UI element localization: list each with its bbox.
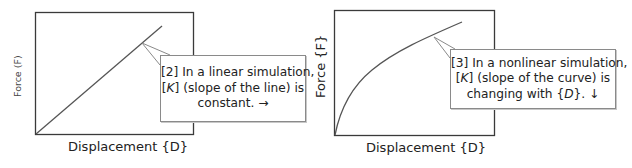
right-callout-box: [3] In a nonlinear simulation, [K] (slop… — [450, 49, 616, 109]
left-x-axis-label: Displacement {D} — [68, 139, 188, 154]
left-linear-line — [36, 26, 162, 134]
right-y-axis-label: Force {F} — [313, 35, 328, 98]
callout-line-2: [K] (slope of the curve) is — [451, 71, 615, 87]
callout-line-1: [3] In a nonlinear simulation, — [451, 56, 615, 72]
right-x-axis-label: Displacement {D} — [366, 140, 486, 155]
callout-line-3: changing with {D}. ↓ — [451, 87, 615, 103]
callout-line-1: [2] In a linear simulation, — [161, 65, 305, 81]
right-nonlinear-curve — [335, 22, 462, 135]
left-y-axis-label: Force (F) — [12, 55, 23, 97]
callout-line-3: constant. → — [161, 96, 305, 112]
left-callout-box: [2] In a linear simulation, [K] (slope o… — [160, 55, 306, 122]
callout-line-2: [K] (slope of the line) is — [161, 81, 305, 97]
